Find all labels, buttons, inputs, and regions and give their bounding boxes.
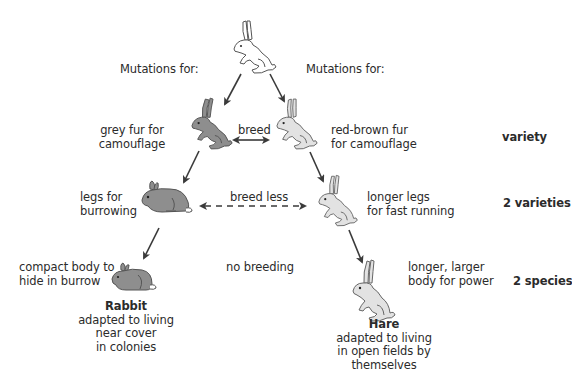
rabbit-species-name: Rabbit xyxy=(70,300,182,314)
rabbit-desc-line3: in colonies xyxy=(70,341,182,355)
burrowing-rabbit-icon xyxy=(140,180,198,218)
arrow-grey-to-burrowing xyxy=(184,151,199,182)
hare-desc-line1: adapted to living xyxy=(330,332,438,346)
hare-species-description: Hare adapted to living in open fields by… xyxy=(330,318,438,372)
hare-species-name: Hare xyxy=(330,318,438,332)
burrowing-trait: legs for burrowing xyxy=(80,190,137,218)
grey-fur-trait-line2: camouflage xyxy=(82,137,182,151)
compact-body-trait-line2: hide in burrow xyxy=(19,274,115,288)
hare-desc-line2: in open fields by xyxy=(330,345,438,359)
long-legs-trait: longer legs for fast running xyxy=(367,190,455,218)
rabbit-desc-line2: near cover xyxy=(70,327,182,341)
rabbit-species-description: Rabbit adapted to living near cover in c… xyxy=(70,300,182,354)
burrowing-trait-line1: legs for xyxy=(80,190,137,204)
long-legs-trait-line2: for fast running xyxy=(367,204,455,218)
larger-body-trait: longer, larger body for power xyxy=(408,260,494,288)
hare-species-icon xyxy=(352,258,398,324)
burrowing-trait-line2: burrowing xyxy=(80,204,137,218)
arrow-burrowing-to-rabbit xyxy=(144,228,159,258)
grey-fur-rabbit-icon xyxy=(190,96,236,152)
rabbit-species-icon xyxy=(110,262,158,294)
red-brown-fur-trait: red-brown fur for camouflage xyxy=(331,123,417,151)
stage-2-varieties: 2 varieties xyxy=(503,196,571,210)
larger-body-trait-line1: longer, larger xyxy=(408,260,494,274)
rabbit-desc-line1: adapted to living xyxy=(70,314,182,328)
ancestral-rabbit-icon xyxy=(232,18,280,76)
right-mutations-header: Mutations for: xyxy=(306,62,385,76)
red-brown-fur-trait-line2: for camouflage xyxy=(331,137,417,151)
long-legs-rabbit-icon xyxy=(317,172,361,230)
red-brown-fur-trait-line1: red-brown fur xyxy=(331,123,417,137)
no-breeding-label: no breeding xyxy=(226,260,294,274)
stage-2-species: 2 species xyxy=(513,274,572,288)
left-mutations-header: Mutations for: xyxy=(120,62,199,76)
long-legs-trait-line1: longer legs xyxy=(367,190,455,204)
stage-variety: variety xyxy=(502,130,547,144)
breed-less-label: breed less xyxy=(230,190,288,204)
hare-desc-line3: themselves xyxy=(330,359,438,373)
compact-body-trait: compact body to hide in burrow xyxy=(19,260,115,288)
red-brown-fur-rabbit-icon xyxy=(275,96,321,152)
compact-body-trait-line1: compact body to xyxy=(19,260,115,274)
grey-fur-trait-line1: grey fur for xyxy=(82,123,182,137)
larger-body-trait-line2: body for power xyxy=(408,274,494,288)
grey-fur-trait: grey fur for camouflage xyxy=(82,123,182,151)
breed-label: breed xyxy=(238,123,271,137)
